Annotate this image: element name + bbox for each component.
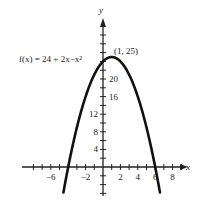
x-tick-label: 6 bbox=[153, 172, 158, 182]
y-axis-arrow-icon bbox=[100, 18, 106, 27]
y-tick-label: 8 bbox=[94, 127, 99, 137]
y-tick-label: 12 bbox=[89, 109, 98, 119]
x-axis-label: x bbox=[185, 162, 190, 172]
y-tick-label: 4 bbox=[94, 144, 99, 154]
x-tick-label: 4 bbox=[136, 172, 141, 182]
function-label: f(x) = 24 + 2x−x² bbox=[19, 54, 82, 64]
x-tick-label: 2 bbox=[118, 172, 123, 182]
x-tick-label: −2 bbox=[81, 172, 91, 182]
axes bbox=[22, 18, 188, 196]
vertex-label: (1, 25) bbox=[114, 46, 138, 56]
y-tick-label: 20 bbox=[109, 74, 119, 84]
x-tick-label: 8 bbox=[170, 172, 175, 182]
parabola-chart: −6−2246848121620 x y f(x) = 24 + 2x−x² (… bbox=[0, 0, 210, 208]
y-axis-label: y bbox=[98, 5, 103, 15]
x-tick-label: −6 bbox=[46, 172, 56, 182]
y-tick-label: 16 bbox=[109, 92, 119, 102]
